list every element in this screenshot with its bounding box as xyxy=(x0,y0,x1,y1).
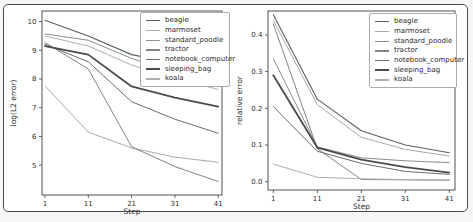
legend-line-swatch xyxy=(146,49,160,50)
legend-line-swatch xyxy=(375,69,389,71)
legend-line-swatch xyxy=(146,30,160,31)
y-axis-label: log(L2 error) xyxy=(9,80,18,127)
legend-item: tractor xyxy=(375,46,451,56)
legend-item-label: beagle xyxy=(165,16,189,25)
legend-item-label: sleeping_bag xyxy=(394,66,440,75)
x-tick-label: 41 xyxy=(214,200,223,208)
legend-line-swatch xyxy=(375,31,389,32)
legend-item: standard_poodle xyxy=(146,35,224,45)
x-tick-label: 1 xyxy=(271,195,275,203)
x-axis-label: Step xyxy=(123,207,140,216)
legend-item: koala xyxy=(375,75,451,85)
legend-item: koala xyxy=(146,74,224,84)
legend-line-swatch xyxy=(375,21,389,22)
y-tick-label: 5 xyxy=(32,162,36,170)
legend-item-label: marmoset xyxy=(394,27,430,36)
legend-item: marmoset xyxy=(375,27,451,37)
legend-line-swatch xyxy=(375,60,389,61)
legend-item: beagle xyxy=(146,16,224,26)
y-tick-label: 8 xyxy=(32,75,36,83)
legend-line-swatch xyxy=(146,40,160,41)
legend-item-label: koala xyxy=(394,75,413,84)
y-tick-label: 10 xyxy=(28,18,37,26)
legend-item-label: standard_poodle xyxy=(394,37,452,46)
legend-item: beagle xyxy=(375,17,451,27)
series-line-notebook_computer xyxy=(273,106,449,174)
legend-item-label: tractor xyxy=(394,46,418,55)
legend-item-label: tractor xyxy=(165,45,189,54)
legend-line-swatch xyxy=(146,59,160,60)
figure-page: 1112131415678910Steplog(L2 error)1112131… xyxy=(0,0,473,222)
legend-line-swatch xyxy=(146,68,160,70)
legend-item: marmoset xyxy=(146,26,224,36)
legend-item-label: beagle xyxy=(394,17,418,26)
right-chart-legend: beaglemarmosetstandard_poodletractornote… xyxy=(369,13,457,88)
x-tick-label: 31 xyxy=(401,195,410,203)
legend-item-label: sleeping_bag xyxy=(165,65,211,74)
x-axis-label: Step xyxy=(353,202,370,211)
legend-item: standard_poodle xyxy=(375,36,451,46)
y-axis-label: relative error xyxy=(235,75,244,125)
legend-item: sleeping_bag xyxy=(146,64,224,74)
y-tick-label: 0.0 xyxy=(251,178,262,186)
y-tick-label: 0.4 xyxy=(251,31,263,39)
legend-line-swatch xyxy=(146,78,160,79)
x-tick-label: 41 xyxy=(445,195,454,203)
y-tick-label: 6 xyxy=(32,133,37,141)
legend-item: notebook_computer xyxy=(375,56,451,66)
series-line-koala xyxy=(273,164,449,180)
x-tick-label: 1 xyxy=(43,200,47,208)
y-tick-label: 0.1 xyxy=(251,141,262,149)
x-tick-label: 31 xyxy=(170,200,179,208)
legend-line-swatch xyxy=(375,79,389,80)
legend-item: sleeping_bag xyxy=(375,65,451,75)
legend-item-label: koala xyxy=(165,74,184,83)
y-tick-label: 7 xyxy=(32,104,36,112)
left-chart-legend: beaglemarmosetstandard_poodletractornote… xyxy=(140,12,230,87)
legend-item: notebook_computer xyxy=(146,55,224,65)
y-tick-label: 0.2 xyxy=(251,105,262,113)
y-tick-label: 9 xyxy=(32,47,36,55)
legend-item-label: marmoset xyxy=(165,26,201,35)
legend-item: tractor xyxy=(146,45,224,55)
series-line-marmoset xyxy=(45,86,218,162)
legend-item-label: notebook_computer xyxy=(394,56,464,65)
x-tick-label: 11 xyxy=(84,200,93,208)
legend-line-swatch xyxy=(375,41,389,42)
legend-item-label: standard_poodle xyxy=(165,36,223,45)
legend-line-swatch xyxy=(146,20,160,21)
legend-line-swatch xyxy=(375,50,389,51)
y-tick-label: 0.3 xyxy=(251,68,262,76)
legend-item-label: notebook_computer xyxy=(165,55,235,64)
x-tick-label: 11 xyxy=(313,195,322,203)
